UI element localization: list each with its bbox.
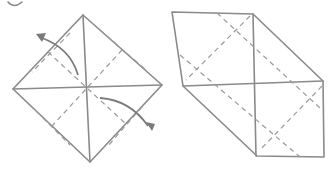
fold-arrow-up-left — [42, 38, 78, 75]
figure-after — [172, 12, 324, 157]
figure-before — [13, 15, 162, 162]
arrow-head-icon — [36, 33, 46, 42]
step-number-circle — [8, 2, 22, 6]
origami-diagram — [0, 0, 335, 169]
arrow-head-icon — [146, 122, 155, 131]
